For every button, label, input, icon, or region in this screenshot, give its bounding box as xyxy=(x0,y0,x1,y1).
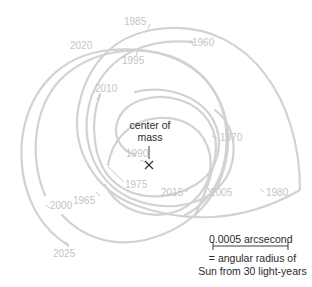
year-label-1990: 1990 xyxy=(126,149,148,159)
scale-bar-caption-line2: Sun from 30 light-years xyxy=(193,265,312,278)
year-label-2005: 2005 xyxy=(210,188,232,198)
year-label-2000: 2000 xyxy=(50,201,72,211)
scale-bar-caption: = angular radius of Sun from 30 light-ye… xyxy=(193,252,312,277)
scale-bar-value-label: 0.0005 arcsecond xyxy=(209,233,292,246)
year-label-1985: 1985 xyxy=(124,17,146,27)
center-of-mass-marker-icon xyxy=(145,161,153,169)
year-label-1980: 1980 xyxy=(266,188,288,198)
center-of-mass-label-line2: mass xyxy=(127,131,173,143)
center-of-mass-label-line1: center of xyxy=(127,119,173,131)
year-label-1970: 1970 xyxy=(220,133,242,143)
year-label-1960: 1960 xyxy=(192,38,214,48)
year-label-2025: 2025 xyxy=(53,249,75,259)
tick-1965 xyxy=(96,192,100,196)
year-label-2015: 2015 xyxy=(161,188,183,198)
tick-1990 xyxy=(140,160,145,162)
year-label-2010: 2010 xyxy=(95,84,117,94)
path-loop-2000 xyxy=(36,50,228,242)
year-label-1995: 1995 xyxy=(122,56,144,66)
year-label-1965: 1965 xyxy=(73,196,95,206)
year-label-1975: 1975 xyxy=(125,180,147,190)
year-label-2020: 2020 xyxy=(70,41,92,51)
tick-1980 xyxy=(260,189,264,192)
tick-1985 xyxy=(148,24,150,29)
center-of-mass-label: center of mass xyxy=(127,119,173,143)
scale-bar-caption-line1: = angular radius of xyxy=(193,252,312,265)
